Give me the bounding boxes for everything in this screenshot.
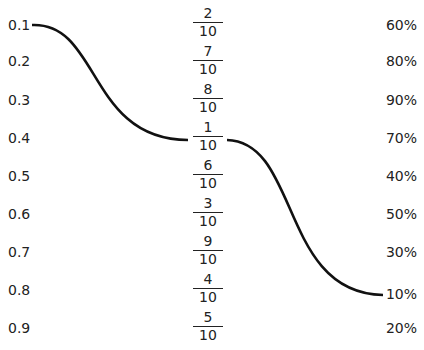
connector-lines	[0, 0, 424, 350]
connector-decimal-to-fraction	[32, 25, 188, 140]
connector-fraction-to-percent	[227, 140, 383, 295]
